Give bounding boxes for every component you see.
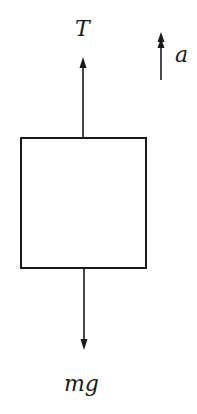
- tension-label: T: [75, 18, 90, 40]
- free-body-diagram: [0, 0, 197, 414]
- block: [21, 138, 146, 268]
- acceleration-label: a: [175, 44, 188, 66]
- acceleration-arrow: [158, 32, 165, 80]
- tension-arrow: [80, 57, 87, 137]
- weight-label: mg: [64, 373, 99, 395]
- weight-arrow: [81, 269, 88, 350]
